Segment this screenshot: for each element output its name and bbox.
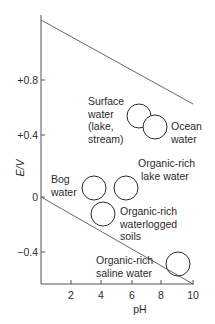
label-bog-water: Bog water [50, 173, 77, 198]
point-organic-lake-water [114, 176, 138, 200]
label-line: (lake, [88, 120, 114, 132]
label-line: Ocean [171, 120, 202, 132]
label-organic-saline-water: Organic-rich saline water [96, 254, 153, 279]
point-ocean-water [143, 115, 167, 139]
label-organic-soils: Organic-rich waterlogged soils [119, 205, 177, 242]
label-line: lake water [141, 170, 189, 182]
point-organic-soils [91, 202, 115, 226]
label-line: water [50, 186, 77, 198]
label-line: Bog [51, 173, 70, 185]
label-line: water [87, 108, 114, 120]
label-line: saline water [96, 267, 153, 279]
x-tick-label: 8 [158, 289, 164, 301]
label-line: waterlogged [119, 218, 177, 230]
label-line: soils [120, 230, 141, 242]
y-axis-title: E/V [14, 159, 26, 177]
x-tick-label: 6 [129, 289, 135, 301]
point-organic-saline-water [166, 252, 190, 276]
label-surface-water: Surface water (lake, stream) [87, 95, 124, 145]
x-tick-label: 10 [187, 289, 199, 301]
label-line: stream) [88, 133, 124, 145]
label-line: Organic-rich [96, 254, 153, 266]
label-line: water [170, 133, 197, 145]
y-tick-label: +0.8 [17, 74, 38, 86]
label-line: Organic-rich [120, 205, 177, 217]
y-tick-label: 0 [32, 191, 38, 203]
x-tick-labels: 2 4 6 8 10 [68, 289, 199, 301]
label-organic-lake-water: Organic-rich lake water [138, 157, 195, 182]
x-tick-label: 2 [68, 289, 74, 301]
label-ocean-water: Ocean water [170, 120, 202, 145]
x-tick-label: 4 [98, 289, 104, 301]
axes [41, 15, 194, 284]
y-tick-label: +0.4 [17, 129, 38, 141]
y-tick-label: −0.4 [17, 246, 38, 258]
label-line: Organic-rich [138, 157, 195, 169]
x-axis-title: pH [133, 303, 146, 315]
eh-ph-chart: +0.8 +0.4 0 −0.4 2 4 6 8 10 pH E/V Surfa… [0, 0, 215, 324]
upper-boundary-line [41, 20, 193, 104]
label-line: Surface [88, 95, 124, 107]
point-bog-water [82, 176, 106, 200]
